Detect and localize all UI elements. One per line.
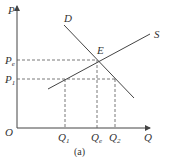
demand-label: D — [63, 12, 72, 24]
supply-demand-diagram: P Q O D S E Pe P1 Q1 Qe Q2 (a) — [0, 0, 193, 157]
caption: (a) — [74, 146, 85, 157]
x-axis-label: Q — [144, 131, 152, 143]
y-axis-label: P — [7, 4, 15, 16]
supply-curve — [48, 34, 150, 89]
supply-label: S — [154, 28, 160, 40]
q2-label: Q2 — [109, 131, 121, 145]
p1-label: P1 — [4, 73, 15, 87]
q1-label: Q1 — [58, 131, 69, 145]
qe-label: Qe — [91, 131, 102, 145]
origin-label: O — [5, 126, 13, 138]
equilibrium-label: E — [96, 44, 104, 56]
pe-label: Pe — [4, 54, 15, 68]
